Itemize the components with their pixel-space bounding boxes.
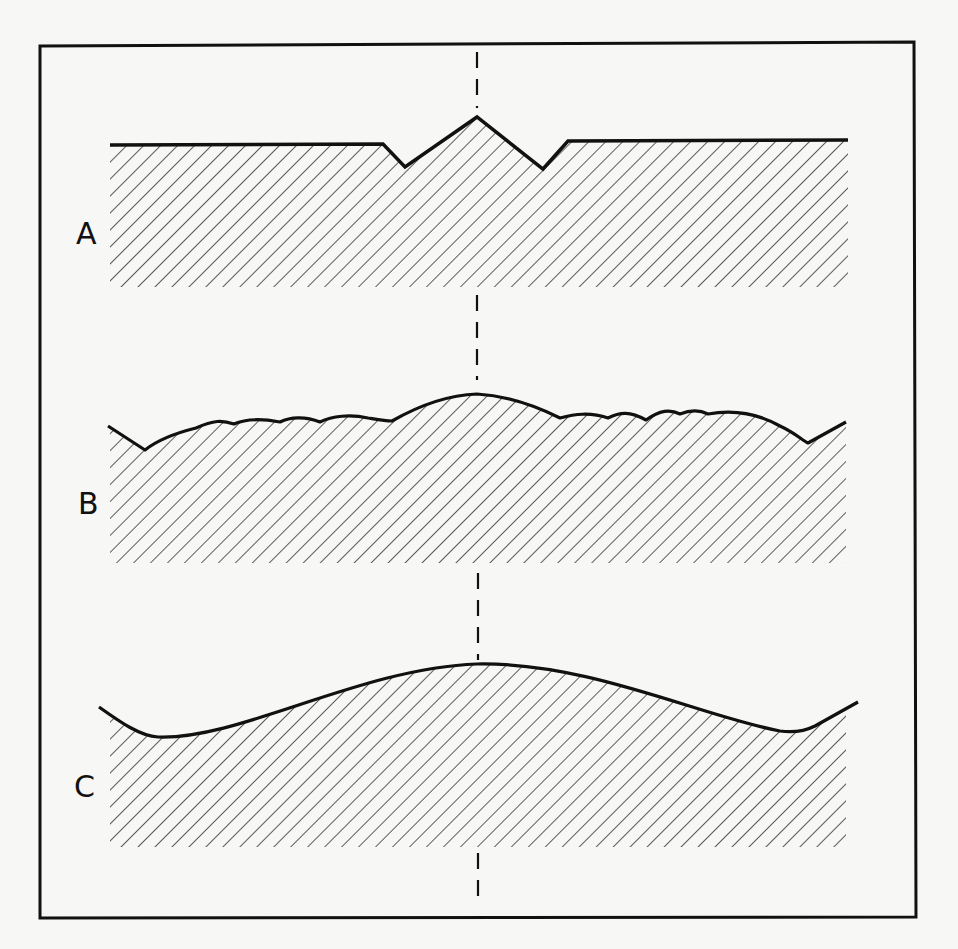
panel-c-label: C [74,769,95,804]
surface-profile-diagram: A B C [0,0,958,949]
panel-a-label: A [76,216,97,251]
panel-a: A [76,117,848,287]
panel-c-hatched-solid [110,664,846,847]
panel-b-label: B [78,486,99,521]
panel-b-hatched-solid [110,394,846,563]
panel-b: B [78,394,846,563]
panel-c: C [74,664,858,847]
panel-a-hatched-solid [110,117,848,287]
